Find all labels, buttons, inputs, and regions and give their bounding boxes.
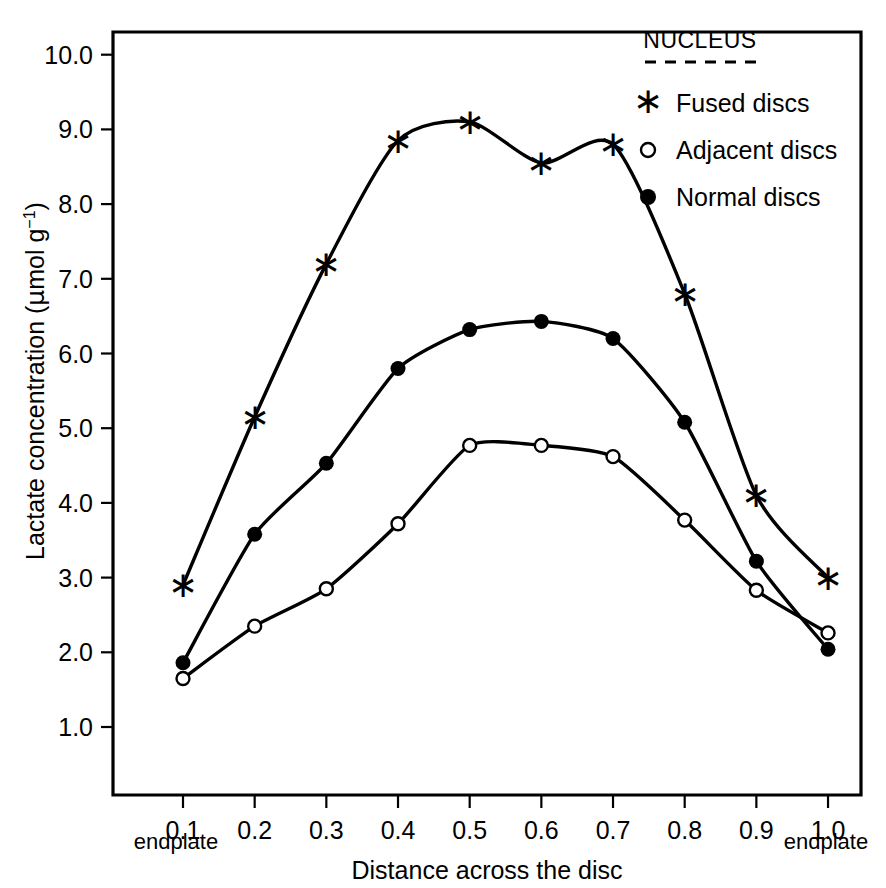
y-axis-title-close: ) bbox=[21, 202, 49, 210]
legend-title: NUCLEUS bbox=[643, 27, 756, 53]
data-point-normal-discs-0.8 bbox=[677, 415, 692, 430]
series-markers-fused-discs: ∗∗∗∗∗∗∗∗∗∗ bbox=[168, 102, 843, 605]
y-axis-title: Lactate concentration (μmol g−1) bbox=[21, 202, 50, 560]
data-point-normal-discs-0.7 bbox=[606, 331, 621, 346]
y-axis-tick-label: 6.0 bbox=[58, 340, 93, 368]
y-axis-tick-label: 9.0 bbox=[58, 115, 93, 143]
data-point-normal-discs-0.3 bbox=[319, 456, 334, 471]
data-point-normal-discs-0.2 bbox=[247, 527, 262, 542]
data-point-fused-discs-0.3: ∗ bbox=[311, 244, 341, 284]
data-point-adjacent-discs-0.3 bbox=[320, 582, 333, 595]
data-point-adjacent-discs-0.5 bbox=[463, 439, 476, 452]
x-axis-tick-label: 0.2 bbox=[237, 816, 272, 844]
data-point-normal-discs-0.9 bbox=[749, 554, 764, 569]
x-axis-left-endplate-label: endplate bbox=[134, 829, 218, 854]
data-point-fused-discs-0.2: ∗ bbox=[240, 397, 270, 437]
x-axis-tick-label: 0.8 bbox=[667, 816, 702, 844]
x-axis-tick-label: 0.4 bbox=[381, 816, 416, 844]
data-point-adjacent-discs-0.9 bbox=[750, 584, 763, 597]
data-point-normal-discs-0.4 bbox=[391, 361, 406, 376]
y-axis-title-mu: μ bbox=[21, 290, 50, 306]
legend-entry-normal-discs: Normal discs bbox=[640, 183, 820, 211]
y-axis-title-exponent: −1 bbox=[21, 210, 38, 228]
legend-entry-label: Normal discs bbox=[676, 183, 820, 211]
data-point-fused-discs-0.8: ∗ bbox=[670, 274, 700, 314]
y-axis-tick-label: 7.0 bbox=[58, 265, 93, 293]
x-axis-title: Distance across the disc bbox=[352, 856, 623, 884]
legend-marker-asterisk-icon: ∗ bbox=[633, 81, 663, 121]
y-axis-tick-label: 5.0 bbox=[58, 414, 93, 442]
data-point-fused-discs-0.9: ∗ bbox=[741, 475, 771, 515]
y-axis-tick-label: 3.0 bbox=[58, 564, 93, 592]
legend-entry-fused-discs: ∗Fused discs bbox=[633, 81, 809, 121]
y-axis-tick-label: 4.0 bbox=[58, 489, 93, 517]
data-point-adjacent-discs-0.4 bbox=[392, 517, 405, 530]
legend-entries: ∗Fused discsAdjacent discsNormal discs bbox=[633, 81, 837, 211]
y-axis-tick-label: 8.0 bbox=[58, 190, 93, 218]
y-axis-title-main: Lactate concentration ( bbox=[21, 305, 49, 560]
data-point-fused-discs-0.1: ∗ bbox=[168, 565, 198, 605]
data-point-adjacent-discs-0.7 bbox=[607, 450, 620, 463]
data-point-adjacent-discs-0.1 bbox=[177, 672, 190, 685]
data-point-adjacent-discs-1.0 bbox=[822, 626, 835, 639]
data-point-normal-discs-0.5 bbox=[462, 322, 477, 337]
x-axis-tick-label: 0.3 bbox=[309, 816, 344, 844]
y-axis-tick-labels: 10.09.08.07.06.05.04.03.02.01.0 bbox=[44, 41, 93, 741]
x-axis-tick-labels: 0.10.20.30.40.50.60.70.80.91.0 bbox=[166, 816, 846, 844]
legend-marker-filled-circle-icon bbox=[640, 189, 656, 205]
data-point-normal-discs-1.0 bbox=[821, 642, 836, 657]
x-axis-tick-label: 0.5 bbox=[452, 816, 487, 844]
x-axis-tick-label: 0.7 bbox=[596, 816, 631, 844]
chart-legend: NUCLEUS ∗Fused discsAdjacent discsNormal… bbox=[633, 27, 837, 211]
y-axis-ticks bbox=[101, 55, 113, 727]
y-axis-title-unit: mol g bbox=[21, 229, 49, 290]
data-point-adjacent-discs-0.8 bbox=[678, 514, 691, 527]
y-axis-tick-label: 2.0 bbox=[58, 638, 93, 666]
legend-marker-open-circle-icon bbox=[641, 143, 655, 157]
data-point-fused-discs-0.5: ∗ bbox=[455, 102, 485, 142]
data-point-normal-discs-0.6 bbox=[534, 314, 549, 329]
y-axis-tick-label: 10.0 bbox=[44, 41, 93, 69]
data-point-adjacent-discs-0.6 bbox=[535, 439, 548, 452]
data-point-fused-discs-1.0: ∗ bbox=[813, 558, 843, 598]
legend-entry-label: Fused discs bbox=[676, 89, 809, 117]
data-point-fused-discs-0.4: ∗ bbox=[383, 121, 413, 161]
legend-entry-label: Adjacent discs bbox=[676, 136, 837, 164]
y-axis-tick-label: 1.0 bbox=[58, 713, 93, 741]
x-axis-ticks bbox=[183, 795, 828, 808]
legend-entry-adjacent-discs: Adjacent discs bbox=[641, 136, 837, 164]
data-point-normal-discs-0.1 bbox=[176, 655, 191, 670]
x-axis-tick-label: 0.6 bbox=[524, 816, 559, 844]
data-point-fused-discs-0.6: ∗ bbox=[526, 143, 556, 183]
x-axis-right-endplate-label: endplate bbox=[784, 829, 868, 854]
series-curve-adjacent-discs bbox=[183, 442, 828, 679]
figure-container: 10.09.08.07.06.05.04.03.02.01.0 0.10.20.… bbox=[0, 0, 886, 888]
data-point-fused-discs-0.7: ∗ bbox=[598, 124, 628, 164]
data-point-adjacent-discs-0.2 bbox=[248, 620, 261, 633]
svg-text:Lactate concentration (μmol g−: Lactate concentration (μmol g−1) bbox=[21, 202, 50, 560]
lactate-concentration-chart: 10.09.08.07.06.05.04.03.02.01.0 0.10.20.… bbox=[0, 0, 886, 888]
x-axis-tick-label: 0.9 bbox=[739, 816, 774, 844]
series-markers-adjacent-discs bbox=[177, 439, 835, 685]
